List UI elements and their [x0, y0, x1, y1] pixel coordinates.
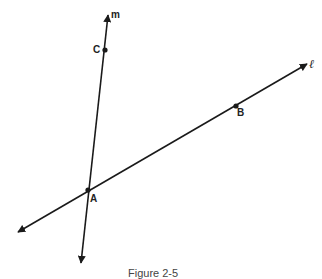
label-line-l: ℓ	[309, 58, 314, 70]
label-point-a: A	[90, 194, 97, 204]
label-line-m: m	[111, 10, 120, 20]
label-point-c: C	[93, 45, 100, 55]
figure-caption: Figure 2-5	[128, 268, 178, 279]
point-c	[102, 47, 107, 52]
line-l	[18, 64, 307, 232]
label-point-b: B	[237, 108, 244, 118]
point-a	[85, 187, 90, 192]
